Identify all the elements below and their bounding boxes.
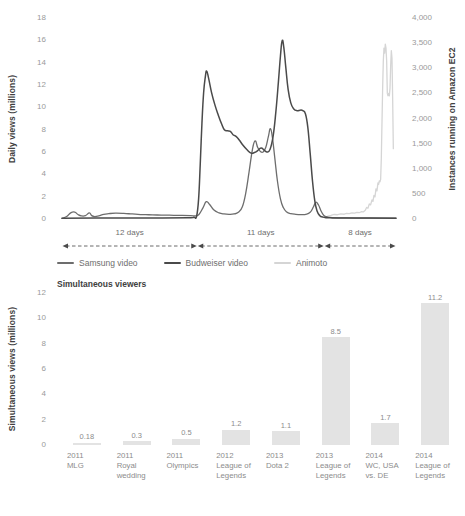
- bar-rect: [322, 337, 350, 445]
- bar-value-label: 1.7: [380, 414, 390, 422]
- legend-item-samsung-video[interactable]: Samsung video: [57, 258, 138, 268]
- duration-arrowhead: [191, 243, 197, 248]
- bar-chart-y-tick: 12: [22, 289, 46, 297]
- bar-chart-y-tick: 4: [22, 390, 46, 398]
- bar-chart-panel: Simultaneous views (millions) Simultaneo…: [0, 275, 465, 516]
- bar-chart-y-tick: 2: [22, 416, 46, 424]
- bar-chart-y-axis-title: Simultaneous views (millions): [7, 307, 17, 431]
- bar-column[interactable]: 11.2: [421, 293, 449, 445]
- bar-value-label: 0.5: [181, 429, 191, 437]
- legend-label: Samsung video: [79, 258, 138, 268]
- bar-column[interactable]: 0.18: [73, 293, 101, 445]
- legend-item-animoto[interactable]: Animoto: [274, 258, 327, 268]
- duration-arrowhead: [63, 243, 69, 248]
- line-chart-panel: Daily views (millions) Instances running…: [0, 0, 465, 275]
- bar-column[interactable]: 0.5: [172, 293, 200, 445]
- bar-rect: [172, 439, 200, 445]
- line-chart-right-tick: 2,500: [412, 89, 442, 97]
- line-chart-right-tick: 3,000: [412, 64, 442, 72]
- bar-chart-title: Simultaneous viewers: [57, 279, 146, 289]
- duration-arrowhead: [325, 243, 331, 248]
- legend-swatch-icon: [57, 262, 74, 264]
- bar-chart-plot: 0.180.30.51.21.18.51.711.2: [62, 293, 460, 445]
- bar-chart-x-tick-labels: 2011 MLG2011 Royal wedding2011 Olympics2…: [62, 451, 460, 511]
- line-chart-left-tick: 6: [22, 148, 46, 156]
- line-chart-right-tick: 1,500: [412, 140, 442, 148]
- line-chart-left-tick: 2: [22, 193, 46, 201]
- bar-column[interactable]: 0.3: [123, 293, 151, 445]
- line-chart-secondary-y-axis-title: Instances running on Amazon EC2: [447, 47, 457, 190]
- line-chart-legend: Samsung videoBudweiser videoAnimoto: [57, 256, 327, 270]
- line-chart-y-axis-title: Daily views (millions): [7, 74, 17, 162]
- line-series-budweiser-video: [62, 40, 396, 218]
- line-chart-left-tick: 14: [22, 59, 46, 67]
- legend-swatch-icon: [274, 262, 291, 264]
- line-chart-right-tick: 1,000: [412, 165, 442, 173]
- line-chart-left-tick: 8: [22, 126, 46, 134]
- line-chart-right-tick: 2,000: [412, 115, 442, 123]
- duration-label: 11 days: [197, 228, 324, 237]
- bar-x-label: 2013 Dota 2: [266, 451, 312, 471]
- legend-item-budweiser-video[interactable]: Budweiser video: [164, 258, 248, 268]
- duration-label: 8 days: [324, 228, 396, 237]
- bar-column[interactable]: 8.5: [322, 293, 350, 445]
- duration-arrowhead: [198, 243, 204, 248]
- duration-label: 12 days: [62, 228, 197, 237]
- line-chart-right-tick: 500: [412, 190, 442, 198]
- line-chart-left-tick: 12: [22, 81, 46, 89]
- legend-label: Budweiser video: [186, 258, 248, 268]
- duration-arrow-axis: [62, 240, 396, 252]
- bar-chart-y-tick: 0: [22, 441, 46, 449]
- line-chart-left-tick: 0: [22, 215, 46, 223]
- bar-column[interactable]: 1.7: [371, 293, 399, 445]
- bar-value-label: 0.3: [131, 432, 141, 440]
- legend-swatch-icon: [164, 262, 181, 265]
- bar-x-label: 2013 League of Legends: [316, 451, 362, 481]
- legend-label: Animoto: [296, 258, 327, 268]
- line-chart-right-tick: 3,500: [412, 39, 442, 47]
- duration-arrowhead: [390, 243, 396, 248]
- bar-rect: [73, 443, 101, 445]
- bar-value-label: 8.5: [330, 328, 340, 336]
- bar-x-label: 2011 MLG: [67, 451, 113, 471]
- bar-rect: [371, 423, 399, 445]
- bar-value-label: 1.1: [281, 422, 291, 430]
- bar-chart-y-tick: 6: [22, 365, 46, 373]
- line-series-animoto: [324, 44, 393, 217]
- bar-column[interactable]: 1.2: [222, 293, 250, 445]
- line-chart-left-tick: 16: [22, 36, 46, 44]
- bar-x-label: 2011 Olympics: [166, 451, 212, 471]
- bar-chart-y-tick: 8: [22, 340, 46, 348]
- bar-rect: [421, 303, 449, 445]
- bar-x-label: 2011 Royal wedding: [117, 451, 163, 481]
- bar-x-label: 2012 League of Legends: [216, 451, 262, 481]
- line-chart-left-tick: 18: [22, 14, 46, 22]
- bar-rect: [272, 431, 300, 445]
- duration-arrowhead: [318, 243, 324, 248]
- line-chart-left-tick: 10: [22, 103, 46, 111]
- line-chart-plot: [62, 18, 396, 219]
- line-chart-right-tick: 4,000: [412, 14, 442, 22]
- bar-rect: [123, 441, 151, 445]
- line-series-samsung-video: [62, 129, 396, 219]
- line-chart-right-tick: 0: [412, 215, 442, 223]
- bar-value-label: 11.2: [428, 294, 442, 302]
- line-chart-left-tick: 4: [22, 170, 46, 178]
- bar-column[interactable]: 1.1: [272, 293, 300, 445]
- bar-rect: [222, 430, 250, 445]
- duration-scale-bar: 12 days11 days8 days: [62, 228, 396, 252]
- bar-value-label: 1.2: [231, 420, 241, 428]
- bar-x-label: 2014 WC, USA vs. DE: [365, 451, 411, 481]
- bar-chart-y-tick: 10: [22, 314, 46, 322]
- bar-x-label: 2014 League of Legends: [415, 451, 461, 481]
- bar-value-label: 0.18: [80, 433, 95, 441]
